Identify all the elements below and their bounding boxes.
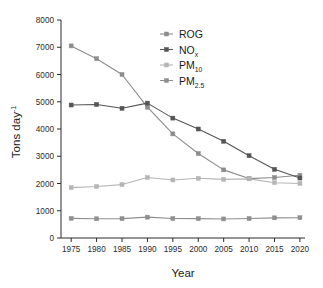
data-point (171, 217, 175, 221)
x-tick-label: 1990 (138, 245, 157, 254)
data-point (222, 217, 226, 221)
series-line (71, 217, 300, 219)
legend-item-pm2-5: PM2.5 (160, 75, 204, 89)
y-axis-title: Tons day-1 (10, 106, 22, 158)
data-point (69, 44, 73, 48)
data-point (298, 176, 302, 180)
data-point (298, 216, 302, 220)
data-point (120, 106, 124, 110)
legend-label: PM10 (179, 59, 203, 73)
legend-label: NOx (179, 44, 199, 58)
y-tick-label: 4000 (36, 125, 55, 134)
x-tick-label: 2020 (291, 245, 310, 254)
data-point (120, 217, 124, 221)
legend-item-rog: ROG (160, 28, 203, 40)
y-tick-label: 2000 (36, 180, 55, 189)
data-point (145, 105, 149, 109)
svg-text:Tons day-1: Tons day-1 (10, 106, 22, 158)
data-point (145, 101, 149, 105)
x-tick-label: 2000 (189, 245, 208, 254)
data-point (222, 168, 226, 172)
data-point (247, 177, 251, 181)
data-point (247, 217, 251, 221)
data-point (69, 103, 73, 107)
y-tick-label: 1000 (36, 207, 55, 216)
x-tick-label: 2005 (215, 245, 234, 254)
data-point (222, 139, 226, 143)
series-line (71, 103, 300, 178)
y-axis-title-text: Tons day (10, 112, 22, 158)
data-point (171, 132, 175, 136)
chart-legend: ROGNOxPM10PM2.5 (160, 28, 204, 89)
x-tick-label: 1985 (113, 245, 132, 254)
y-tick-label: 7000 (36, 43, 55, 52)
data-point (196, 152, 200, 156)
chart-figure: 010002000300040005000600070008000 197519… (0, 0, 323, 288)
data-point (145, 176, 149, 180)
legend-marker (165, 48, 169, 52)
y-tick-label: 0 (49, 234, 54, 243)
data-point (95, 102, 99, 106)
legend-marker (165, 63, 169, 67)
data-point (69, 186, 73, 190)
y-tick-label: 8000 (36, 16, 55, 25)
data-point (196, 127, 200, 131)
legend-label: ROG (179, 28, 203, 40)
x-axis-ticks (71, 238, 300, 242)
data-point (273, 216, 277, 220)
data-point (69, 216, 73, 220)
x-tick-label: 1995 (164, 245, 183, 254)
data-point (273, 176, 277, 180)
data-point (222, 177, 226, 181)
data-point (145, 215, 149, 219)
data-point (196, 176, 200, 180)
x-tick-label: 1980 (87, 245, 106, 254)
y-axis-ticks (57, 20, 61, 238)
data-point (171, 116, 175, 120)
series-line (71, 178, 300, 188)
data-point (196, 217, 200, 221)
x-axis-tick-labels: 1975198019851990199520002005201020152020 (62, 245, 309, 254)
x-tick-label: 2010 (240, 245, 259, 254)
data-point (120, 183, 124, 187)
data-point (247, 154, 251, 158)
data-point (273, 167, 277, 171)
y-tick-label: 6000 (36, 71, 55, 80)
x-tick-label: 2015 (265, 245, 284, 254)
data-point (95, 57, 99, 61)
series-pm2-5 (69, 215, 302, 221)
x-axis-title: Year (171, 267, 194, 279)
data-point (120, 73, 124, 77)
legend-label: PM2.5 (179, 75, 204, 89)
x-tick-label: 1975 (62, 245, 81, 254)
data-point (95, 184, 99, 188)
y-axis-tick-labels: 010002000300040005000600070008000 (36, 16, 55, 243)
emissions-line-chart: 010002000300040005000600070008000 197519… (0, 0, 323, 288)
legend-marker (165, 32, 169, 36)
y-tick-label: 5000 (36, 98, 55, 107)
data-point (171, 178, 175, 182)
legend-item-pm10: PM10 (160, 59, 203, 73)
y-tick-label: 3000 (36, 152, 55, 161)
legend-item-nox: NOx (160, 44, 199, 58)
data-point (298, 182, 302, 186)
data-point (95, 217, 99, 221)
y-axis-title-exponent: -1 (10, 106, 17, 112)
series-nox (69, 101, 302, 180)
legend-marker (165, 79, 169, 83)
data-point (273, 181, 277, 185)
